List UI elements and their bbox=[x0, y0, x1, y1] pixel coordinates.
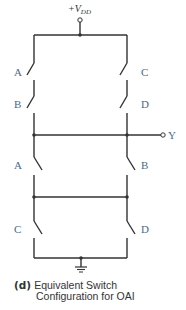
switch-b-bottom bbox=[127, 157, 135, 170]
switch-c-top bbox=[120, 63, 127, 75]
label-b-bottom: B bbox=[141, 159, 148, 171]
caption-tag: (d) bbox=[14, 279, 31, 291]
switch-a-bottom bbox=[34, 157, 42, 170]
switch-b-top bbox=[27, 96, 34, 108]
label-d-top: D bbox=[141, 98, 149, 110]
output-terminal bbox=[161, 133, 165, 137]
label-a-bottom: A bbox=[14, 159, 22, 171]
label-d-bottom: D bbox=[141, 223, 149, 235]
label-c-bottom: C bbox=[14, 223, 21, 235]
label-b-top: B bbox=[14, 98, 21, 110]
pulldown-upper-pair bbox=[34, 135, 135, 197]
switch-c-bottom bbox=[34, 221, 42, 234]
pulldown-lower-pair bbox=[34, 197, 135, 258]
output-label: Y bbox=[168, 129, 176, 141]
switch-a-top bbox=[27, 63, 34, 75]
pullup-left-branch bbox=[27, 35, 34, 135]
vdd-terminal bbox=[78, 18, 82, 22]
caption-line2: Configuration for OAI bbox=[14, 291, 135, 302]
figure-caption: (d)Equivalent Switch Configuration for O… bbox=[14, 280, 135, 302]
label-a-top: A bbox=[14, 66, 22, 78]
switch-d-bottom bbox=[127, 221, 135, 234]
switch-diagram: +VDD A B C D Y A B bbox=[0, 0, 186, 310]
switch-d-top bbox=[120, 96, 127, 108]
label-c-top: C bbox=[141, 66, 148, 78]
vdd-label: +VDD bbox=[68, 3, 91, 16]
pullup-right-branch bbox=[120, 35, 127, 135]
ground-icon bbox=[75, 258, 87, 272]
